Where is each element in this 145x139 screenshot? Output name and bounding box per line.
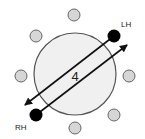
diagram-canvas: 4 LH RH	[0, 0, 145, 139]
lug-nut-right	[123, 70, 135, 82]
lug-nut-bottom	[69, 122, 81, 134]
lug-nut-left	[15, 70, 27, 82]
right-hand-label: RH	[15, 123, 27, 132]
lug-nut-top	[68, 9, 80, 21]
lug-nut-bottom-right	[108, 109, 120, 121]
lug-nut-tightening-diagram: 4 LH RH	[0, 0, 145, 139]
lug-nut-top-left	[30, 30, 42, 42]
left-hand-label: LH	[121, 20, 131, 29]
right-hand-dot	[30, 109, 43, 122]
left-hand-dot	[108, 30, 121, 43]
center-step-label: 4	[71, 69, 78, 84]
